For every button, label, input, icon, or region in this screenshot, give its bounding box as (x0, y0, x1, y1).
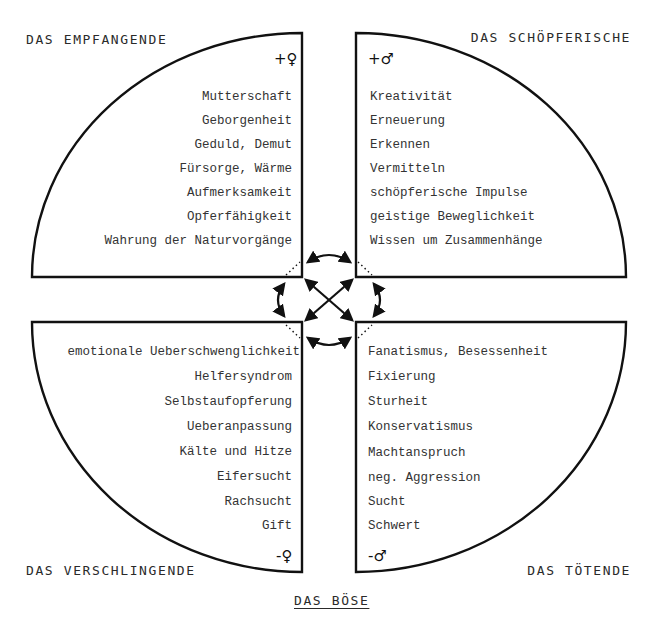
list-bottom-right: Fanatismus, Besessenheit Fixierung Sturh… (368, 0, 648, 600)
list-item: Sucht (368, 495, 406, 509)
cross-arrows (306, 280, 352, 320)
list-item: Kälte und Hitze (179, 445, 292, 459)
list-item: emotionale Ueberschwenglichkeit (67, 345, 300, 359)
list-item: Rachsucht (224, 495, 292, 509)
footer-title: DAS BÖSE (294, 593, 369, 608)
list-item: Gift (262, 519, 292, 533)
list-item: Fixierung (368, 370, 436, 384)
list-item: neg. Aggression (368, 471, 481, 485)
list-bottom-left: emotionale Ueberschwenglichkeit Helfersy… (0, 0, 292, 600)
list-item: Selbstaufopferung (164, 395, 292, 409)
list-item: Machtanspruch (368, 446, 466, 460)
list-item: Konservatismus (368, 420, 473, 434)
list-item: Fanatismus, Besessenheit (368, 345, 548, 359)
list-item: Ueberanpassung (187, 420, 292, 434)
list-item: Schwert (368, 519, 421, 533)
list-item: Helfersyndrom (194, 370, 292, 384)
list-item: Eifersucht (217, 470, 292, 484)
list-item: Sturheit (368, 395, 428, 409)
